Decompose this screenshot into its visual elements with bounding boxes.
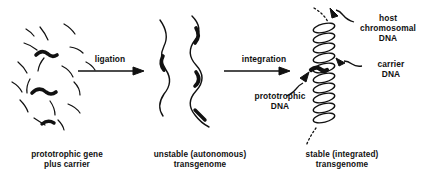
callout-carrier-dna: carrier DNA xyxy=(364,60,418,80)
coiled-chromosome-helix xyxy=(306,8,336,146)
arrow-integration-text: integration xyxy=(242,54,286,64)
caption-unstable-transgenome: unstable (autonomous) transgenome xyxy=(134,150,266,169)
caption-mid-line2: transgenome xyxy=(134,160,266,170)
callout-carrier-dna-line2: DNA xyxy=(364,70,418,80)
callout-leader-carrier xyxy=(336,58,362,66)
figure-canvas: ligation integration host chromosomal DN… xyxy=(0,0,422,189)
caption-right-line1: stable (integrated) xyxy=(272,150,412,160)
arrow-integration-label: integration xyxy=(224,55,304,65)
arrow-integration-glyph xyxy=(224,67,290,75)
caption-left-line2: plus carrier xyxy=(6,160,128,170)
callout-host-dna: host chromosomal DNA xyxy=(356,14,420,44)
caption-prototrophic-gene-plus-carrier: prototrophic gene plus carrier xyxy=(6,150,128,169)
callout-leader-host xyxy=(330,8,354,22)
callout-host-dna-line3: DNA xyxy=(356,34,420,44)
arrow-ligation-label: ligation xyxy=(78,55,142,65)
arrow-ligation-glyph xyxy=(78,67,144,75)
caption-left-line1: prototrophic gene xyxy=(6,150,128,160)
caption-right-line2: transgenome xyxy=(272,160,412,170)
arrow-ligation-text: ligation xyxy=(95,54,126,64)
callout-prototrophic-dna-line2: DNA xyxy=(248,102,312,112)
scattered-dna-fragments xyxy=(12,24,95,130)
wavy-dna-strands xyxy=(160,16,209,127)
caption-stable-transgenome: stable (integrated) transgenome xyxy=(272,150,412,169)
caption-mid-line1: unstable (autonomous) xyxy=(134,150,266,160)
callout-prototrophic-dna: prototrophic DNA xyxy=(248,92,312,112)
